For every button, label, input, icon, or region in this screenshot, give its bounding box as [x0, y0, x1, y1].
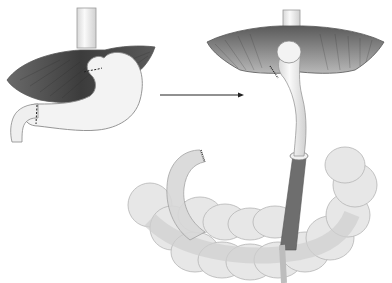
panel-before: [7, 8, 155, 142]
gastric-fundus: [277, 41, 301, 63]
figure: [0, 0, 392, 283]
panel-after: [128, 10, 384, 283]
vessel: [282, 245, 284, 283]
arrow-icon: [160, 93, 244, 98]
esophagus: [77, 8, 96, 48]
illustration-canvas: [0, 0, 392, 283]
